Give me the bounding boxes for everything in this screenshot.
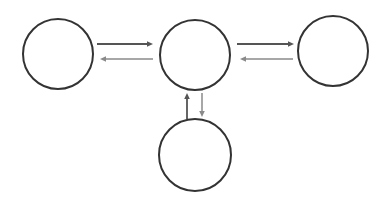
- state-diagram: [0, 0, 389, 204]
- diagram-canvas: [0, 0, 389, 204]
- diagram-background: [0, 0, 389, 204]
